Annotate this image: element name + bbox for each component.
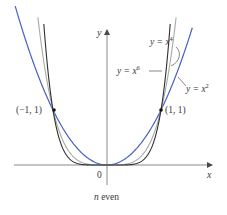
label-x2: y = x2 bbox=[185, 82, 209, 94]
origin-label: 0 bbox=[97, 170, 102, 180]
point-label-1-1: (1, 1) bbox=[165, 105, 186, 116]
y-axis-label: y bbox=[96, 27, 102, 38]
point-1-1 bbox=[159, 108, 163, 112]
point-neg1-1 bbox=[52, 108, 56, 112]
x-axis-label: x bbox=[206, 169, 212, 180]
point-label-neg1-1: (−1, 1) bbox=[16, 105, 42, 116]
even-power-functions-chart: y x 0 (−1, 1) (1, 1) y = x4 y = x6 y = x… bbox=[0, 0, 227, 215]
label-x4: y = x4 bbox=[149, 35, 174, 47]
caption: n even bbox=[94, 192, 119, 202]
leader-x2 bbox=[178, 77, 186, 86]
label-x6: y = x6 bbox=[116, 64, 141, 76]
